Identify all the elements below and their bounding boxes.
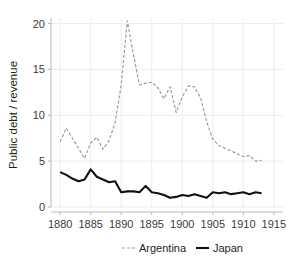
x-axis-tick-labels: 18801885189018951900190519101915 xyxy=(48,218,286,230)
y-tick-label: 5 xyxy=(39,155,45,167)
y-axis-title: Public debt / revenue xyxy=(7,61,19,169)
x-tick-label: 1905 xyxy=(201,218,225,230)
x-tick-label: 1885 xyxy=(78,218,102,230)
y-tick-label: 20 xyxy=(33,18,45,30)
x-tick-label: 1915 xyxy=(262,218,286,230)
chart-legend: ArgentinaJapan xyxy=(122,242,243,254)
x-tick-label: 1880 xyxy=(48,218,72,230)
y-tick-label: 15 xyxy=(33,63,45,75)
x-tick-label: 1900 xyxy=(170,218,194,230)
legend-label-japan: Japan xyxy=(213,242,243,254)
y-axis-tick-labels: 05101520 xyxy=(33,18,45,213)
axes xyxy=(48,18,283,215)
y-tick-label: 0 xyxy=(39,201,45,213)
legend-label-argentina: Argentina xyxy=(139,242,187,254)
x-tick-label: 1890 xyxy=(109,218,133,230)
x-tick-label: 1895 xyxy=(139,218,163,230)
line-chart: 05101520 1880188518901895190019051910191… xyxy=(0,0,302,267)
chart-figure: 05101520 1880188518901895190019051910191… xyxy=(0,0,302,267)
x-tick-label: 1910 xyxy=(231,218,255,230)
y-tick-label: 10 xyxy=(33,109,45,121)
